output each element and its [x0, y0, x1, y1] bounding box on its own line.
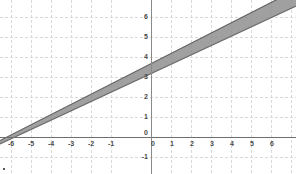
y-tick-label--1: -1	[138, 153, 148, 161]
y-tick-label-6: 6	[138, 13, 148, 21]
x-tick-label--5: -5	[24, 140, 38, 148]
x-tick-label--6: -6	[4, 140, 18, 148]
y-tick-label-2: 2	[138, 93, 148, 101]
x-tick-label-1: 1	[165, 140, 179, 148]
x-tick-label-2: 2	[185, 140, 199, 148]
y-tick-label-3: 3	[138, 73, 148, 81]
x-tick-label--4: -4	[44, 140, 58, 148]
x-tick-label-3: 3	[205, 140, 219, 148]
bottom-left-artifact-mark	[3, 168, 5, 170]
x-tick-label--2: -2	[84, 140, 98, 148]
x-tick-label--1: -1	[104, 140, 118, 148]
x-tick-label-0: 0	[146, 140, 160, 148]
graph-screenshot: -6 -5 -4 -3 -2 -1 0 1 2 3 4 5 6 6 5 4 3 …	[0, 0, 296, 174]
y-tick-label-4: 4	[138, 53, 148, 61]
y-tick-label-5: 5	[138, 33, 148, 41]
x-tick-label-6: 6	[265, 140, 279, 148]
y-tick-label-0: 0	[138, 129, 148, 137]
y-tick-label-1: 1	[138, 113, 148, 121]
x-tick-label-5: 5	[245, 140, 259, 148]
x-tick-label-4: 4	[225, 140, 239, 148]
x-tick-label--3: -3	[64, 140, 78, 148]
